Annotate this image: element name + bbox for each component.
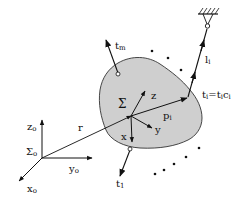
body-frame-label: Σ	[118, 97, 126, 111]
position-vector-label: r	[78, 122, 83, 133]
axis-x-label: x	[121, 131, 127, 142]
tension-tm-label: tm	[115, 40, 126, 52]
axis-xo-label: xo	[27, 183, 37, 195]
tension-t1-label: t1	[116, 178, 125, 190]
rigid-body-shape	[99, 57, 202, 148]
cable-1	[120, 147, 132, 176]
world-frame-label: Σo	[26, 146, 37, 158]
axis-yo-label: yo	[68, 163, 79, 175]
tension-ti-label: ti=tici	[202, 89, 232, 101]
axis-zo-label: zo	[27, 121, 37, 133]
axis-z-label: z	[151, 90, 156, 101]
cable-length-label: li	[205, 54, 211, 66]
ellipsis-dots-bottom	[154, 147, 201, 176]
ground-anchor-icon	[198, 8, 219, 28]
rigid-body-cable-diagram: li ti=tici tm t1 zo yo xo Σo r	[0, 0, 239, 201]
axis-y-label: y	[154, 124, 161, 135]
